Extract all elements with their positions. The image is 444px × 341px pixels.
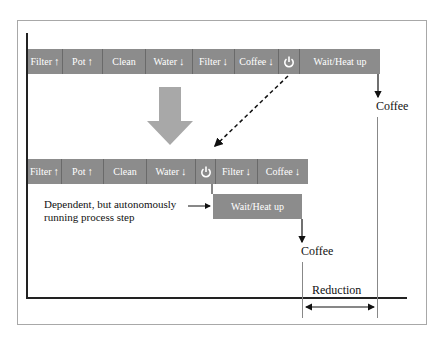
big-down-arrow-icon [147,87,193,145]
connectors [0,0,444,341]
dashed-arrow [215,76,288,146]
